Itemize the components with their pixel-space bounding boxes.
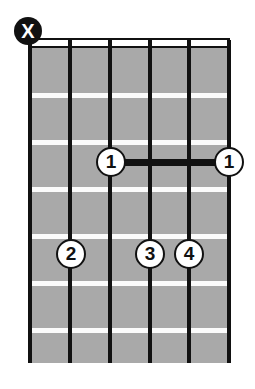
finger-dot-1-string-6[interactable]: 1: [214, 147, 244, 177]
finger-dot-3-string-4[interactable]: 3: [135, 239, 165, 269]
chord-diagram: X 11234: [0, 0, 255, 389]
fret-line-6: [28, 328, 230, 333]
mute-marker-string-1[interactable]: X: [14, 17, 42, 45]
string-2: [68, 40, 72, 363]
finger-dot-4-string-5[interactable]: 4: [174, 239, 204, 269]
string-5: [187, 40, 191, 363]
fret-line-2: [28, 140, 230, 145]
finger-dot-1-string-3[interactable]: 1: [96, 147, 126, 177]
fret-line-3: [28, 187, 230, 192]
string-4: [148, 40, 152, 363]
fret-line-5: [28, 281, 230, 286]
string-6: [227, 40, 231, 363]
fret-line-1: [28, 93, 230, 98]
finger-dot-2-string-2[interactable]: 2: [56, 239, 86, 269]
string-3: [108, 40, 112, 363]
nut: [28, 38, 230, 48]
fret-line-4: [28, 234, 230, 239]
string-1: [28, 40, 32, 363]
barre-fret-3: [111, 159, 229, 166]
